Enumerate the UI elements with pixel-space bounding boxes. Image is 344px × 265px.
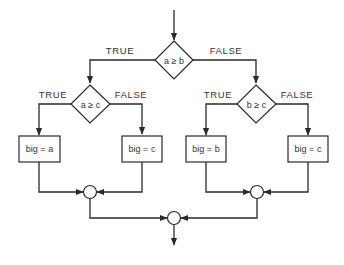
label-d3-false: FALSE [281, 89, 314, 100]
edge-d3-false [276, 104, 308, 135]
process-big-eq-c-right-text: big = c [295, 144, 322, 154]
edge-d2-false [110, 104, 142, 134]
label-d3-true: TRUE [204, 89, 232, 100]
process-big-eq-b-text: big = b [192, 144, 219, 154]
decision-a-ge-b-text: a ≥ b [164, 56, 184, 66]
edge-d3-true [206, 104, 237, 135]
decision-a-ge-c-text: a ≥ c [81, 100, 101, 110]
process-big-eq-a: big = a [19, 136, 60, 162]
flowchart: a ≥ b a ≥ c b ≥ c TRUE FALSE TRUE FALSE … [0, 0, 344, 265]
edge-d1-true [90, 60, 155, 83]
junction-bottom [168, 212, 181, 225]
edge-p1-j1 [39, 162, 83, 192]
process-big-eq-c-left-text: big = c [129, 144, 156, 154]
process-big-eq-c-right: big = c [288, 136, 328, 162]
process-big-eq-b: big = b [186, 136, 226, 162]
junction-left [84, 186, 97, 199]
edge-j1-j3 [90, 198, 167, 218]
edge-p4-j2 [264, 162, 308, 192]
edge-p3-j2 [206, 162, 250, 192]
edge-d2-true [39, 104, 71, 135]
decision-a-ge-c: a ≥ c [71, 85, 110, 123]
edge-p2-j1 [97, 162, 142, 192]
label-d1-false: FALSE [210, 45, 243, 56]
edge-d1-false [193, 60, 256, 83]
label-d2-false: FALSE [115, 89, 148, 100]
label-d1-true: TRUE [106, 45, 134, 56]
label-d2-true: TRUE [39, 89, 67, 100]
decision-a-ge-b: a ≥ b [155, 41, 193, 79]
process-big-eq-c-left: big = c [122, 136, 162, 162]
edge-j2-j3 [181, 198, 257, 218]
junction-right [251, 186, 264, 199]
process-big-eq-a-text: big = a [26, 144, 53, 154]
decision-b-ge-c: b ≥ c [237, 85, 276, 123]
decision-b-ge-c-text: b ≥ c [247, 100, 267, 110]
